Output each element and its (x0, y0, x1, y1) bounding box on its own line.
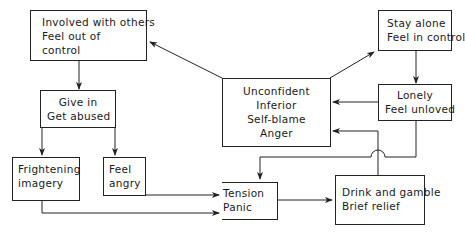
node-text: Self-blame (229, 112, 324, 126)
node-frightening-imagery: Frightening imagery (12, 157, 80, 201)
node-text: Unconfident (229, 84, 324, 98)
node-text: Feel (109, 162, 139, 176)
node-text: Tension (223, 186, 271, 200)
node-text: angry (109, 176, 139, 190)
node-give-in: Give in Get abused (40, 90, 116, 128)
arrow-drink-to-unconfident (333, 131, 378, 175)
node-text: Drink and gamble (342, 185, 418, 199)
node-text: Stay alone (387, 16, 445, 30)
arrow-unconfident-to-stay-alone (330, 52, 374, 78)
node-drink-and-gamble: Drink and gamble Brief relief (335, 175, 425, 225)
node-lonely: Lonely Feel unloved (378, 84, 452, 121)
node-text: Panic (223, 200, 271, 214)
arrow-frightening-to-tension (42, 200, 219, 213)
node-unconfident: Unconfident Inferior Self-blame Anger (222, 78, 331, 147)
node-feel-angry: Feel angry (103, 157, 146, 196)
node-text: imagery (18, 176, 73, 190)
node-involved-with-others: Involved with others Feel out of control (30, 10, 147, 61)
node-text: Anger (229, 126, 324, 140)
node-stay-alone: Stay alone Feel in control (378, 10, 452, 51)
node-text: Inferior (229, 98, 324, 112)
node-text: control (42, 43, 140, 57)
node-text: Give in (47, 95, 109, 109)
node-text: Feel unloved (385, 102, 445, 116)
node-text: Feel in control (387, 30, 445, 44)
node-tension-panic: Tension Panic (222, 182, 278, 220)
node-text: Involved with others (42, 15, 140, 29)
node-text: Get abused (47, 109, 109, 123)
node-text: Lonely (385, 88, 445, 102)
node-text: Brief relief (342, 199, 418, 213)
node-text: Feel out of (42, 29, 140, 43)
arrow-unconfident-to-involved (150, 42, 222, 78)
node-text: Frightening (18, 162, 73, 176)
